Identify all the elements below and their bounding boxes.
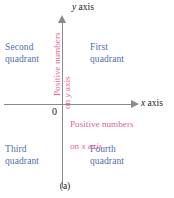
x-axis-note-prefix: on	[70, 141, 81, 151]
x-axis-arrowhead-icon	[131, 100, 139, 108]
coordinate-plane-figure: y axis x axis 0 Second quadrant First qu…	[0, 0, 174, 198]
x-axis-label: x axis	[141, 98, 163, 109]
y-axis-note-variable: y	[62, 93, 72, 97]
y-axis-label-suffix: axis	[76, 2, 94, 12]
y-axis-note-suffix: axis	[62, 76, 72, 93]
y-axis-positive-note-line1: Positive numbers	[52, 22, 62, 96]
x-axis-positive-note-line2: on x axis	[70, 141, 134, 152]
figure-caption: (a)	[0, 181, 130, 191]
y-axis-positive-note-line2: on y axis	[62, 35, 72, 109]
y-axis-positive-note: Positive numbers on y axis	[44, 30, 70, 104]
origin-label: 0	[52, 106, 57, 117]
y-axis-label: y axis	[72, 2, 94, 13]
x-axis-positive-note-line1: Positive numbers	[70, 119, 134, 130]
x-axis-positive-note: Positive numbers on x axis	[70, 108, 134, 163]
x-axis-label-suffix: axis	[145, 98, 163, 108]
quadrant-label-first: First quadrant	[90, 42, 124, 65]
quadrant-label-second: Second quadrant	[5, 42, 39, 65]
quadrant-label-third: Third quadrant	[5, 144, 39, 167]
x-axis-note-suffix: axis	[86, 141, 103, 151]
